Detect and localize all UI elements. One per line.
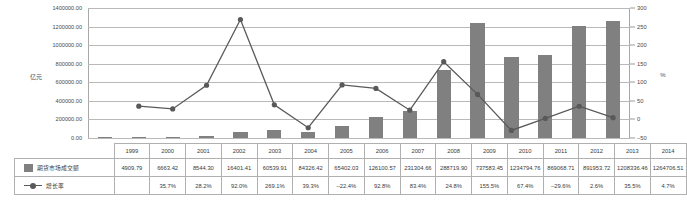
table-cell-growth xyxy=(114,177,150,195)
table-col-header: 2009 xyxy=(472,144,508,159)
y-tick-left: 600000.00 xyxy=(20,79,82,85)
table-cell-growth: 67.4% xyxy=(507,177,543,195)
table-cell-growth: 155.5% xyxy=(472,177,508,195)
y-tick-left: 1000000.00 xyxy=(20,42,82,48)
table-cell-growth: 2.6% xyxy=(579,177,615,195)
table-cell-turnover: 8544.30 xyxy=(186,159,222,177)
y-tick-left: 0.00 xyxy=(20,135,82,141)
table-cell-turnover: 1234794.76 xyxy=(507,159,543,177)
legend-label-growth: 增长率 xyxy=(46,181,64,190)
line-series-growth-rate xyxy=(88,8,630,138)
y-tick-mark-right xyxy=(630,82,635,83)
bar-swatch-icon xyxy=(24,164,33,172)
table-cell-turnover: 65402.03 xyxy=(329,159,365,177)
y-tick-right: –50 xyxy=(637,135,647,141)
y-tick-left: 1200000.00 xyxy=(20,24,82,30)
table-cell-growth: 269.1% xyxy=(257,177,293,195)
y-tick-mark-right xyxy=(630,138,635,139)
table-cell-growth: 28.2% xyxy=(186,177,222,195)
table-cell-turnover: 1264706.51 xyxy=(650,159,686,177)
table-cell-turnover: 737583.45 xyxy=(472,159,508,177)
table-col-header: 2007 xyxy=(400,144,436,159)
table-cell-growth: –29.6% xyxy=(543,177,579,195)
plot-area: 亿元 % 0.00200000.00400000.00600000.008000… xyxy=(0,0,679,142)
table-col-header: 2012 xyxy=(579,144,615,159)
y-tick-left: 400000.00 xyxy=(20,98,82,104)
data-point-marker xyxy=(373,86,378,91)
table-col-header: 2011 xyxy=(543,144,579,159)
y-tick-right: 50 xyxy=(637,98,643,104)
line-marker-icon xyxy=(24,182,42,190)
y-tick-mark-right xyxy=(630,8,635,9)
table-row-growth: 增长率 35.7%28.2%92.0%269.1%39.3%–22.4%92.8… xyxy=(15,177,687,195)
y-tick-left: 800000.00 xyxy=(20,61,82,67)
y-tick-mark-right xyxy=(630,63,635,64)
table-col-header: 2000 xyxy=(150,144,186,159)
y-tick-left: 1400000.00 xyxy=(20,5,82,11)
table-cell-growth: 4.7% xyxy=(650,177,686,195)
y-axis-ticks-right: –50050100150200250300 xyxy=(630,0,660,142)
table-cell-growth: 24.8% xyxy=(436,177,472,195)
table-row-turnover: 期货市场成交额 4909.796663.428544.3016401.41605… xyxy=(15,159,687,177)
table-header-row: 1999200020012002200320042005200620072008… xyxy=(15,144,687,159)
data-point-marker xyxy=(339,82,344,87)
table-col-header: 2001 xyxy=(186,144,222,159)
data-point-marker xyxy=(407,108,412,113)
data-point-marker xyxy=(610,115,615,120)
table-col-header: 2014 xyxy=(650,144,686,159)
data-point-marker xyxy=(577,104,582,109)
table-cell-turnover: 869068.71 xyxy=(543,159,579,177)
data-point-marker xyxy=(238,17,243,22)
data-point-marker xyxy=(170,106,175,111)
y-tick-right: 300 xyxy=(637,5,647,11)
y-tick-mark-right xyxy=(630,100,635,101)
data-point-marker xyxy=(509,128,514,133)
table-corner-cell xyxy=(15,144,115,159)
table-col-header: 2005 xyxy=(329,144,365,159)
table-col-header: 2003 xyxy=(257,144,293,159)
y-tick-mark-right xyxy=(630,119,635,120)
data-point-marker xyxy=(441,59,446,64)
legend-item-growth: 增长率 xyxy=(15,177,115,195)
data-point-marker xyxy=(543,116,548,121)
y-tick-right: 250 xyxy=(637,24,647,30)
legend-label-turnover: 期货市场成交额 xyxy=(37,163,79,172)
table-cell-growth: 35.5% xyxy=(615,177,651,195)
table-cell-turnover: 891953.72 xyxy=(579,159,615,177)
y-tick-mark-right xyxy=(630,26,635,27)
data-point-marker xyxy=(475,92,480,97)
y-axis-ticks-left: 0.00200000.00400000.00600000.00800000.00… xyxy=(20,0,82,142)
legend-item-turnover: 期货市场成交额 xyxy=(15,159,115,177)
y-tick-right: 100 xyxy=(637,79,647,85)
data-point-marker xyxy=(136,104,141,109)
table-cell-turnover: 4909.79 xyxy=(114,159,150,177)
table-cell-turnover: 6663.42 xyxy=(150,159,186,177)
data-point-marker xyxy=(272,102,277,107)
table-cell-growth: 35.7% xyxy=(150,177,186,195)
table-cell-turnover: 231304.66 xyxy=(400,159,436,177)
data-point-marker xyxy=(306,125,311,130)
table-cell-growth: 39.3% xyxy=(293,177,329,195)
y-tick-right: 0 xyxy=(637,116,640,122)
table-col-header: 2013 xyxy=(615,144,651,159)
table-col-header: 2008 xyxy=(436,144,472,159)
data-table: 1999200020012002200320042005200620072008… xyxy=(14,143,666,203)
table-cell-growth: 83.4% xyxy=(400,177,436,195)
y-tick-right: 150 xyxy=(637,61,647,67)
table-col-header: 2010 xyxy=(507,144,543,159)
table-cell-turnover: 288719.90 xyxy=(436,159,472,177)
table-cell-turnover: 60539.91 xyxy=(257,159,293,177)
table-col-header: 1999 xyxy=(114,144,150,159)
table-col-header: 2006 xyxy=(364,144,400,159)
table-cell-turnover: 84326.42 xyxy=(293,159,329,177)
table-cell-turnover: 1208336.46 xyxy=(615,159,651,177)
table-cell-turnover: 16401.41 xyxy=(221,159,257,177)
gridline xyxy=(88,138,630,139)
data-point-marker xyxy=(204,83,209,88)
y-tick-left: 200000.00 xyxy=(20,116,82,122)
table-col-header: 2004 xyxy=(293,144,329,159)
table-col-header: 2002 xyxy=(221,144,257,159)
table-cell-turnover: 126100.57 xyxy=(364,159,400,177)
table-cell-growth: 92.0% xyxy=(221,177,257,195)
